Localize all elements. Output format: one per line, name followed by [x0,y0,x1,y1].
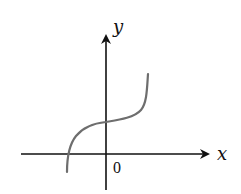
origin-label: 0 [113,159,121,176]
function-graph: y x 0 [0,0,241,194]
function-curve [67,74,148,172]
x-axis-label: x [217,143,227,164]
y-axis-label: y [112,16,124,37]
